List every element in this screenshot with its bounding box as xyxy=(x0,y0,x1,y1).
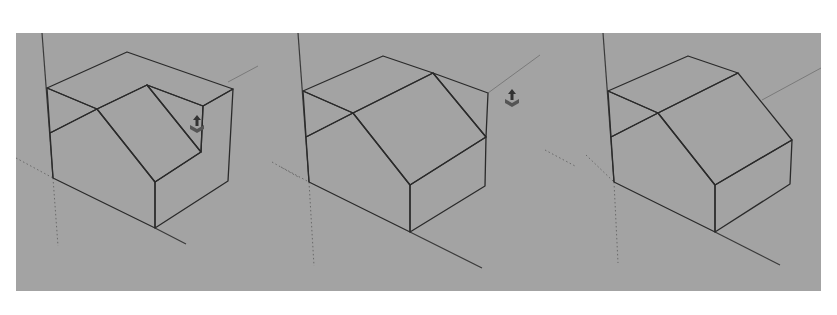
face-top xyxy=(47,52,233,109)
face-left-upper xyxy=(47,88,97,133)
green-axis xyxy=(762,68,821,100)
face-right xyxy=(715,140,792,232)
face-left-lower xyxy=(50,109,155,228)
sketchup-scene xyxy=(0,0,837,315)
red-axis xyxy=(715,232,780,265)
face-slope xyxy=(353,73,486,185)
face-right xyxy=(410,137,486,232)
face-left-lower xyxy=(306,113,410,232)
red-axis-negative xyxy=(281,167,309,182)
green-axis-negative xyxy=(309,182,314,266)
push-pull-icon xyxy=(505,89,519,107)
red-axis-right xyxy=(545,150,575,166)
face-pushed xyxy=(433,73,488,137)
face-left-upper xyxy=(608,91,658,137)
face-top xyxy=(303,56,433,113)
red-axis xyxy=(155,228,186,244)
face-left-lower xyxy=(611,113,715,232)
green-axis xyxy=(488,55,540,93)
red-axis-negative xyxy=(586,155,614,182)
green-axis-negative xyxy=(614,182,618,263)
green-axis xyxy=(228,66,258,82)
face-left-upper xyxy=(303,91,353,137)
face-top xyxy=(608,56,738,113)
red-axis-right xyxy=(272,162,300,178)
red-axis-negative xyxy=(16,158,53,178)
panel-step-2[interactable] xyxy=(281,33,575,268)
panel-step-3[interactable] xyxy=(586,33,821,265)
face-slope xyxy=(658,73,792,185)
panel-step-1[interactable] xyxy=(16,33,300,246)
red-axis xyxy=(410,232,482,268)
green-axis-negative xyxy=(53,178,58,246)
